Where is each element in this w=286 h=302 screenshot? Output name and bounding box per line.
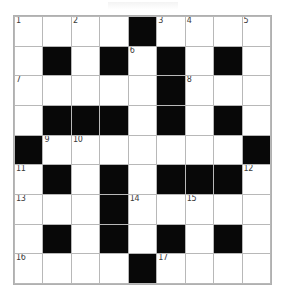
grid-cell-open[interactable] <box>129 76 156 105</box>
grid-cell-open[interactable]: 1 <box>15 17 42 46</box>
cell-number: 3 <box>158 17 163 26</box>
grid-cell-open[interactable] <box>43 195 70 224</box>
grid-cell-block <box>186 165 213 194</box>
cell-number: 7 <box>16 76 21 85</box>
grid-cell-open[interactable] <box>43 17 70 46</box>
grid-cell-open[interactable] <box>186 254 213 283</box>
cell-number: 10 <box>73 136 83 145</box>
grid-cell-open[interactable]: 7 <box>15 76 42 105</box>
crossword-grid[interactable]: 1234567891011121314151617 <box>13 15 272 285</box>
cell-number: 17 <box>158 254 168 263</box>
grid-cell-block <box>157 47 184 76</box>
grid-cell-open[interactable] <box>186 136 213 165</box>
grid-cell-open[interactable] <box>243 76 270 105</box>
cell-number: 11 <box>16 165 26 174</box>
grid-cell-block <box>43 47 70 76</box>
grid-cell-open[interactable] <box>157 136 184 165</box>
grid-cell-open[interactable] <box>72 254 99 283</box>
grid-cell-block <box>157 106 184 135</box>
grid-cell-block <box>214 47 241 76</box>
cell-number: 14 <box>130 195 140 204</box>
cell-number: 16 <box>16 254 26 263</box>
grid-cell-open[interactable] <box>15 47 42 76</box>
grid-cell-block <box>15 136 42 165</box>
grid-cell-block <box>100 47 127 76</box>
grid-cell-open[interactable] <box>129 136 156 165</box>
grid-cell-open[interactable] <box>100 17 127 46</box>
grid-cell-open[interactable] <box>72 195 99 224</box>
grid-cell-open[interactable] <box>186 225 213 254</box>
grid-cell-open[interactable] <box>15 225 42 254</box>
grid-cell-open[interactable] <box>72 47 99 76</box>
grid-cell-block <box>43 225 70 254</box>
grid-cell-open[interactable] <box>214 136 241 165</box>
cell-number: 13 <box>16 195 26 204</box>
cell-number: 1 <box>16 17 21 26</box>
grid-cell-block <box>100 195 127 224</box>
grid-cell-open[interactable] <box>43 76 70 105</box>
grid-cell-open[interactable] <box>186 47 213 76</box>
grid-cell-open[interactable]: 15 <box>186 195 213 224</box>
grid-cell-open[interactable]: 3 <box>157 17 184 46</box>
grid-cell-open[interactable] <box>15 106 42 135</box>
grid-cell-block <box>157 225 184 254</box>
grid-cell-open[interactable]: 17 <box>157 254 184 283</box>
grid-cell-block <box>129 254 156 283</box>
grid-cell-open[interactable] <box>214 195 241 224</box>
grid-cell-open[interactable] <box>243 106 270 135</box>
grid-cell-open[interactable] <box>214 76 241 105</box>
cell-number: 15 <box>187 195 197 204</box>
grid-cell-open[interactable]: 11 <box>15 165 42 194</box>
grid-cell-block <box>129 17 156 46</box>
header-artifact <box>108 2 178 9</box>
grid-cell-block <box>214 225 241 254</box>
grid-cell-open[interactable] <box>72 76 99 105</box>
grid-cell-block <box>43 106 70 135</box>
grid-cell-block <box>72 106 99 135</box>
grid-cell-open[interactable] <box>243 195 270 224</box>
grid-cell-open[interactable] <box>129 225 156 254</box>
grid-cell-open[interactable] <box>214 254 241 283</box>
grid-cell-block <box>100 106 127 135</box>
grid-cell-open[interactable]: 10 <box>72 136 99 165</box>
grid-cell-open[interactable] <box>43 254 70 283</box>
cell-number: 6 <box>130 47 135 56</box>
grid-cell-open[interactable] <box>243 225 270 254</box>
grid-cell-open[interactable]: 16 <box>15 254 42 283</box>
grid-cell-open[interactable] <box>72 225 99 254</box>
grid-cell-block <box>214 106 241 135</box>
grid-cell-block <box>157 76 184 105</box>
grid-cell-open[interactable]: 9 <box>43 136 70 165</box>
cell-number: 4 <box>187 17 192 26</box>
cell-number: 5 <box>244 17 249 26</box>
grid-cell-block <box>157 165 184 194</box>
grid-cell-open[interactable] <box>100 76 127 105</box>
grid-cell-open[interactable] <box>214 17 241 46</box>
grid-cell-open[interactable]: 5 <box>243 17 270 46</box>
grid-cell-block <box>43 165 70 194</box>
grid-cell-open[interactable]: 2 <box>72 17 99 46</box>
grid-cell-open[interactable]: 4 <box>186 17 213 46</box>
grid-cell-open[interactable]: 6 <box>129 47 156 76</box>
grid-cell-open[interactable]: 8 <box>186 76 213 105</box>
grid-cell-open[interactable] <box>100 254 127 283</box>
grid-cell-open[interactable]: 14 <box>129 195 156 224</box>
grid-cell-open[interactable] <box>243 254 270 283</box>
cell-number: 12 <box>244 165 254 174</box>
grid-cell-open[interactable] <box>157 195 184 224</box>
grid-cell-open[interactable]: 13 <box>15 195 42 224</box>
grid-cell-open[interactable] <box>100 136 127 165</box>
grid-cell-open[interactable] <box>186 106 213 135</box>
grid-cell-open[interactable]: 12 <box>243 165 270 194</box>
cell-number: 8 <box>187 76 192 85</box>
cell-number: 9 <box>44 136 49 145</box>
grid-cell-block <box>100 165 127 194</box>
grid-cell-block <box>100 225 127 254</box>
grid-cell-open[interactable] <box>72 165 99 194</box>
grid-cell-open[interactable] <box>129 165 156 194</box>
grid-cell-open[interactable] <box>243 47 270 76</box>
crossword-puzzle: 1234567891011121314151617 <box>0 0 286 302</box>
cell-number: 2 <box>73 17 78 26</box>
grid-cell-block <box>243 136 270 165</box>
grid-cell-open[interactable] <box>129 106 156 135</box>
